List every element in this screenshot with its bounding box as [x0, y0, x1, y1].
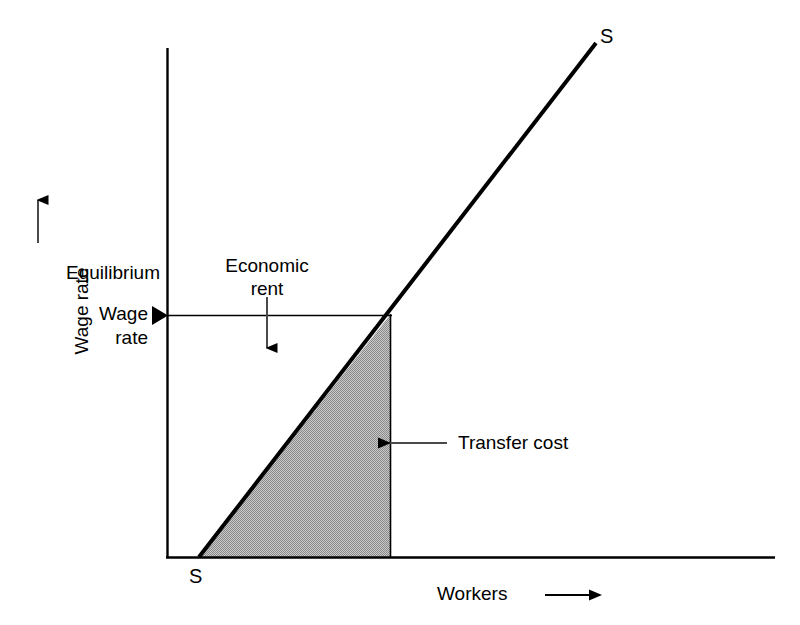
economic-rent-label-line2: rent [197, 278, 337, 300]
economics-diagram: Wage rate Workers Equilibrium Wage rate … [0, 0, 800, 625]
economic-rent-label-line1: Economic [197, 255, 337, 277]
supply-curve-bottom-label: S [189, 565, 202, 589]
equilibrium-label-line3: rate [0, 327, 148, 349]
equilibrium-label-line2: Wage [0, 303, 148, 325]
equilibrium-label-line1: Equilibrium [0, 262, 160, 284]
x-axis-label: Workers [437, 583, 507, 605]
supply-curve-top-label: S [600, 25, 613, 49]
equilibrium-wage-pointer-icon [152, 306, 168, 325]
transfer-cost-label: Transfer cost [458, 432, 568, 454]
